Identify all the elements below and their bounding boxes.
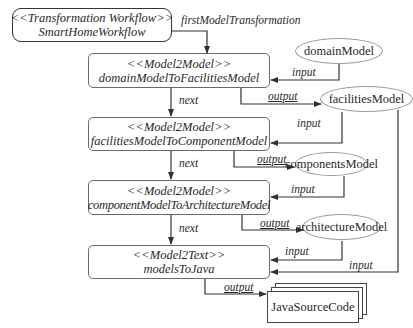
- transformation-stereotype: <<Model2Model>>: [127, 120, 231, 134]
- input-label-domain: input: [292, 66, 316, 78]
- facilities-model-label: facilitiesModel: [329, 92, 405, 107]
- domain-model-ellipse: domainModel: [295, 38, 383, 64]
- next-label-1: next: [179, 94, 198, 106]
- workflow-box: <<Transformation Workflow>> SmartHomeWor…: [12, 8, 172, 42]
- input-label-facilities-long: input: [349, 259, 373, 271]
- architecture-model-label: architectureModel: [296, 220, 388, 235]
- domain-model-label: domainModel: [304, 44, 374, 59]
- output-label-java: output: [224, 281, 253, 293]
- transformation-stereotype: <<Model2Text>>: [133, 248, 225, 262]
- architecture-model-ellipse: architectureModel: [302, 214, 381, 240]
- transformation-name: componentModelToArchitectureModel: [88, 198, 270, 212]
- components-model-ellipse: componentsModel: [295, 152, 368, 176]
- next-label-3: next: [179, 222, 198, 234]
- input-label-facilities: input: [297, 117, 321, 129]
- facilities-model-ellipse: facilitiesModel: [320, 86, 413, 112]
- output-label-facilities: output: [268, 90, 297, 102]
- transformation-stereotype: <<Model2Model>>: [127, 57, 231, 71]
- workflow-stereotype: <<Transformation Workflow>>: [11, 11, 173, 25]
- transformation-box-1: <<Model2Model>> domainModelToFacilitiesM…: [88, 53, 270, 88]
- components-model-label: componentsModel: [285, 157, 378, 172]
- workflow-name: SmartHomeWorkflow: [38, 25, 145, 39]
- transformation-name: modelsToJava: [143, 262, 214, 276]
- java-source-code-label: JavaSourceCode: [271, 300, 354, 315]
- first-transformation-label: firstModelTransformation: [181, 14, 301, 26]
- transformation-box-3: <<Model2Model>> componentModelToArchitec…: [88, 180, 270, 215]
- first-transformation-edge: [172, 31, 207, 53]
- transformation-name: facilitiesModelToComponentModel: [91, 134, 268, 148]
- java-source-code-doc: JavaSourceCode: [267, 291, 359, 323]
- transformation-box-4: <<Model2Text>> modelsToJava: [88, 245, 270, 279]
- next-label-2: next: [179, 157, 198, 169]
- input-label-architecture: input: [285, 245, 309, 257]
- transformation-stereotype: <<Model2Model>>: [127, 184, 231, 198]
- transformation-box-2: <<Model2Model>> facilitiesModelToCompone…: [88, 117, 270, 151]
- input-label-components: input: [291, 183, 315, 195]
- transformation-name: domainModelToFacilitiesModel: [99, 71, 260, 85]
- output-label-components: output: [257, 153, 286, 165]
- output-label-architecture: output: [260, 217, 289, 229]
